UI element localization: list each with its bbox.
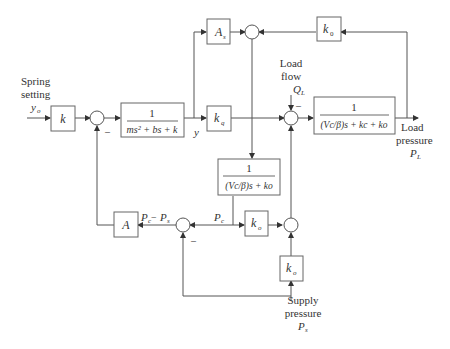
block-ko-bottom: k o	[280, 256, 303, 281]
svg-text:q: q	[221, 119, 225, 127]
svg-text:flow: flow	[281, 70, 301, 82]
svg-text:P: P	[297, 320, 305, 332]
signal-pc-minus-ps-label: P c − P s	[140, 211, 170, 225]
summing-junction-flow	[284, 218, 298, 232]
minus-sign-pressure-diff: –	[190, 235, 197, 246]
svg-text:Load: Load	[401, 121, 424, 133]
block-ko-mid: k o	[245, 211, 268, 236]
signal-y-label: y	[193, 126, 199, 138]
block-As: A s	[207, 19, 230, 44]
svg-text:pressure: pressure	[285, 307, 322, 319]
summing-junction-pressure-diff	[176, 218, 190, 232]
svg-text:o: o	[37, 107, 41, 115]
svg-text:0: 0	[330, 30, 334, 38]
summing-junction-top	[245, 25, 259, 39]
svg-text:k: k	[323, 22, 329, 36]
label-load-flow: Load flow Q L	[280, 57, 305, 97]
summing-junction-spool	[90, 111, 104, 125]
svg-text:y: y	[30, 101, 36, 113]
block-chamber-transfer: 1 (Vc/β)s + ko	[218, 159, 280, 195]
svg-text:(Vc/β)s + kc + ko: (Vc/β)s + kc + ko	[320, 120, 387, 131]
svg-text:pressure: pressure	[396, 134, 433, 146]
svg-text:P: P	[409, 147, 417, 159]
block-kq: k q	[207, 106, 231, 131]
svg-text:k: k	[286, 261, 292, 275]
hydraulic-control-block-diagram: k 1 ms² + bs + k A s k q k 0 1 (Vc/β)s +…	[0, 0, 450, 349]
svg-text:L: L	[300, 89, 305, 97]
svg-text:k: k	[251, 216, 257, 230]
svg-text:s: s	[223, 33, 226, 41]
svg-text:A: A	[121, 218, 130, 232]
svg-text:Supply: Supply	[287, 294, 319, 306]
block-k0-feedback: k 0	[317, 17, 341, 41]
svg-text:1: 1	[149, 107, 155, 119]
svg-text:o: o	[258, 224, 262, 232]
block-k: k	[51, 106, 75, 131]
svg-text:k: k	[60, 112, 66, 126]
svg-text:s: s	[167, 217, 170, 225]
svg-text:P: P	[159, 211, 167, 223]
minus-sign-spool: –	[104, 126, 111, 137]
summing-junction-load	[284, 111, 298, 125]
label-spring-setting: Spring setting y o	[21, 75, 51, 115]
svg-text:ms² + bs + k: ms² + bs + k	[127, 124, 178, 135]
svg-text:Spring: Spring	[21, 75, 51, 87]
svg-text:setting: setting	[21, 88, 51, 100]
block-load-transfer: 1 (Vc/β)s + kc + ko	[314, 97, 395, 134]
svg-text:Q: Q	[293, 83, 301, 95]
svg-text:1: 1	[246, 162, 252, 174]
block-A: A	[114, 212, 138, 237]
svg-text:c: c	[221, 217, 225, 225]
svg-text:−: −	[151, 212, 157, 223]
label-load-pressure: Load pressure P L	[396, 121, 433, 161]
svg-text:k: k	[214, 111, 220, 125]
signal-pc-label: P c	[213, 211, 225, 225]
svg-text:A: A	[214, 25, 223, 39]
minus-sign-load-flow: –	[295, 100, 302, 111]
svg-text:1: 1	[351, 101, 357, 113]
svg-text:P: P	[140, 211, 148, 223]
svg-text:o: o	[293, 269, 297, 277]
block-spool-transfer: 1 ms² + bs + k	[121, 103, 184, 137]
svg-text:Load: Load	[280, 57, 303, 69]
svg-text:(Vc/β)s + ko: (Vc/β)s + ko	[225, 181, 273, 192]
svg-text:s: s	[305, 326, 308, 334]
svg-text:P: P	[213, 211, 221, 223]
svg-text:L: L	[416, 153, 421, 161]
label-supply-pressure: Supply pressure P s	[285, 294, 322, 334]
